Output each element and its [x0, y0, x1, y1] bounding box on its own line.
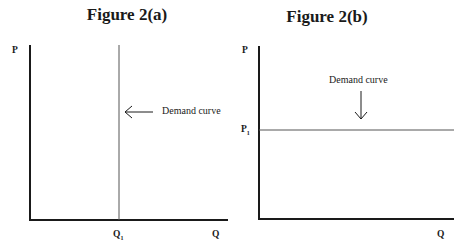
arrow-down-icon: [355, 91, 367, 119]
figure-2a: Figure 2(a) P Q1 Q Demand curve: [0, 0, 232, 249]
demand-curve-annotation: Demand curve: [329, 74, 388, 85]
figure-2b-plot: [232, 0, 465, 249]
y-marker-label: P1: [241, 124, 250, 136]
x-axis-label: Q: [212, 229, 219, 239]
x-marker-subscript: 1: [120, 235, 123, 241]
x-axis-label: Q: [437, 229, 444, 239]
arrow-left-icon: [125, 106, 153, 118]
figure-2b: Figure 2(b) P P1 Q Demand curve: [232, 0, 465, 249]
figure-2a-plot: [0, 0, 232, 249]
demand-curve-annotation: Demand curve: [162, 105, 221, 116]
y-axis-label: P: [242, 45, 248, 55]
y-axis-label: P: [12, 45, 18, 55]
x-marker-label: Q1: [113, 229, 123, 241]
y-marker-subscript: 1: [247, 130, 250, 136]
